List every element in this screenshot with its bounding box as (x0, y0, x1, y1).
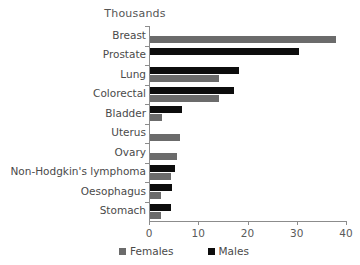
bar-females (150, 36, 336, 43)
bar-group (149, 85, 346, 105)
bar-males (150, 106, 182, 113)
bar-group (149, 65, 346, 85)
plot-area: 010203040 (149, 26, 346, 221)
bar-group (149, 26, 346, 46)
category-label: Breast (0, 29, 146, 41)
y-axis-tick (145, 104, 149, 105)
x-axis-tick (297, 221, 298, 225)
bar-group (149, 202, 346, 222)
category-label: Colorectal (0, 87, 146, 99)
x-axis-tick-label: 10 (183, 227, 213, 239)
x-axis-tick-label: 20 (233, 227, 263, 239)
bar-group (149, 163, 346, 183)
category-label: Bladder (0, 107, 146, 119)
chart-legend: FemalesMales (0, 245, 360, 257)
x-axis-tick-label: 40 (331, 227, 360, 239)
bar-males (150, 87, 234, 94)
bar-males (150, 67, 239, 74)
legend-swatch-icon (208, 248, 215, 255)
bar-group (149, 46, 346, 66)
legend-label: Females (130, 245, 173, 257)
y-axis-tick (145, 124, 149, 125)
category-label: Lung (0, 68, 146, 80)
bar-group (149, 182, 346, 202)
y-axis-tick (145, 26, 149, 27)
x-axis-tick (198, 221, 199, 225)
bar-females (150, 212, 161, 219)
bar-males (150, 204, 171, 211)
bar-females (150, 173, 171, 180)
bar-females (150, 75, 219, 82)
y-axis-tick (145, 202, 149, 203)
category-label: Non-Hodgkin's lymphoma (0, 165, 146, 177)
y-axis-tick (145, 163, 149, 164)
y-axis-tick (145, 85, 149, 86)
bar-group (149, 124, 346, 144)
x-axis-tick (346, 221, 347, 225)
bar-group (149, 143, 346, 163)
bar-females (150, 192, 161, 199)
x-axis-tick-label: 0 (134, 227, 164, 239)
bar-females (150, 153, 177, 160)
chart-title: Thousands (0, 7, 270, 20)
y-axis-tick (145, 46, 149, 47)
category-label: Stomach (0, 204, 146, 216)
legend-item[interactable]: Males (208, 245, 249, 257)
y-axis-tick (145, 65, 149, 66)
legend-label: Males (219, 245, 249, 257)
x-axis-tick (149, 221, 150, 225)
bar-females (150, 114, 162, 121)
bar-males (150, 165, 175, 172)
bar-females (150, 134, 180, 141)
y-axis-tick (145, 143, 149, 144)
category-label: Prostate (0, 48, 146, 60)
category-label: Uterus (0, 126, 146, 138)
bar-males (150, 48, 299, 55)
category-label: Ovary (0, 146, 146, 158)
x-axis-tick-label: 30 (282, 227, 312, 239)
y-axis-tick (145, 182, 149, 183)
legend-item[interactable]: Females (119, 245, 173, 257)
bar-chart: Thousands 010203040 BreastProstateLungCo… (0, 0, 360, 265)
legend-swatch-icon (119, 248, 126, 255)
bar-males (150, 184, 172, 191)
x-axis-tick (248, 221, 249, 225)
bar-females (150, 95, 219, 102)
bar-group (149, 104, 346, 124)
category-label: Oesophagus (0, 185, 146, 197)
